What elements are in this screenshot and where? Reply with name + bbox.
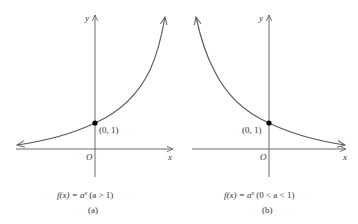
y-axis-label-b: y (258, 13, 263, 23)
caption-exp-b: x (251, 190, 255, 196)
caption-a: f(x) = ax(a > 1) (57, 190, 113, 200)
caption-condition-a: (a > 1) (89, 190, 113, 200)
caption-b: f(x) = ax(0 < a < 1) (224, 190, 294, 200)
x-axis-label-b: x (342, 152, 347, 162)
curve-a (17, 17, 165, 145)
y-axis-label-a: y (84, 13, 89, 23)
panel-b: (0, 1) O x y f(x) = ax(0 < a < 1) (b) (192, 13, 347, 215)
panel-a: (0, 1) O x y f(x) = ax(a > 1) (a) (16, 13, 173, 215)
point-0-1-b (266, 120, 271, 125)
point-label-a: (0, 1) (99, 125, 119, 135)
panel-label-b: (b) (262, 205, 273, 215)
point-label-b: (0, 1) (242, 125, 262, 135)
origin-label-b: O (260, 152, 267, 162)
panel-label-a: (a) (88, 205, 98, 215)
caption-func-b: f(x) = a (224, 190, 252, 200)
origin-label-a: O (86, 152, 93, 162)
exponential-graphs-figure: (0, 1) O x y f(x) = ax(a > 1) (a) (0, 1)… (0, 0, 358, 224)
caption-condition-b: (0 < a < 1) (256, 190, 294, 200)
caption-exp-a: x (84, 190, 88, 196)
caption-func-a: f(x) = a (57, 190, 85, 200)
curve-b (196, 17, 345, 145)
x-axis-label-a: x (167, 152, 172, 162)
point-0-1-a (92, 120, 97, 125)
